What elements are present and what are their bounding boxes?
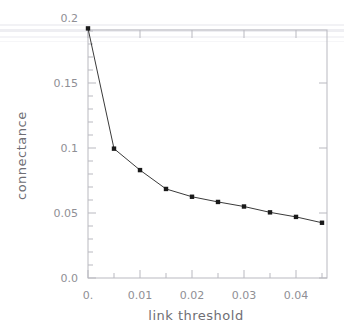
chart-page: 0.00.050.10.150.2 0.0.010.020.030.04 con… [0, 0, 344, 329]
data-point-marker [294, 215, 298, 219]
y-axis-tick-labels: 0.00.050.10.150.2 [54, 12, 79, 285]
x-axis-tick-labels: 0.0.010.020.030.04 [83, 289, 309, 302]
x-tick-label: 0.04 [284, 289, 309, 302]
data-point-marker [164, 187, 168, 191]
data-point-marker [112, 146, 116, 150]
y-axis-title: connectance [14, 111, 29, 200]
x-axis-ticks [88, 30, 322, 278]
y-axis-ticks [88, 31, 327, 278]
connectance-line-chart: 0.00.050.10.150.2 0.0.010.020.030.04 con… [0, 0, 344, 329]
y-tick-label: 0.1 [61, 142, 79, 155]
y-tick-label: 0.05 [54, 207, 79, 220]
data-point-marker [216, 200, 220, 204]
x-tick-label: 0. [83, 289, 94, 302]
y-tick-label: 0.15 [54, 77, 79, 90]
data-point-marker [190, 195, 194, 199]
y-tick-label: 0.2 [61, 12, 79, 25]
data-point-marker [268, 210, 272, 214]
data-point-marker [86, 26, 90, 30]
data-series-line [88, 28, 322, 222]
data-series-markers [86, 26, 324, 225]
data-point-marker [242, 204, 246, 208]
axes-frame [88, 30, 327, 278]
x-tick-label: 0.01 [128, 289, 153, 302]
x-tick-label: 0.03 [232, 289, 257, 302]
x-tick-label: 0.02 [180, 289, 205, 302]
data-point-marker [320, 221, 324, 225]
x-axis-title: link threshold [148, 308, 243, 323]
data-point-marker [138, 168, 142, 172]
chart-plot-area: 0.00.050.10.150.2 0.0.010.020.030.04 con… [0, 0, 344, 329]
y-tick-label: 0.0 [61, 272, 79, 285]
axes-box [88, 30, 327, 278]
